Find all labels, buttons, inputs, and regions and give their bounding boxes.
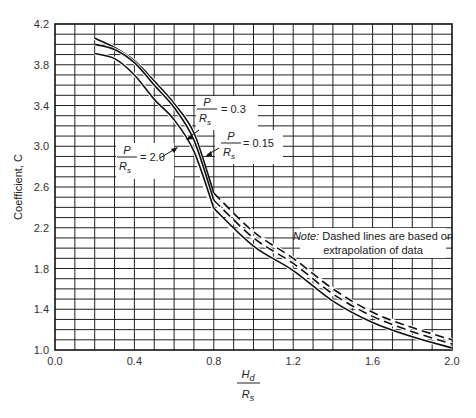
y-tick-label: 3.4: [34, 100, 49, 112]
y-tick-label: 3.8: [34, 59, 49, 71]
annotation-numerator: P: [227, 130, 235, 142]
y-tick-label: 2.2: [34, 222, 49, 234]
y-axis-ticks: 1.01.41.82.22.63.03.43.84.2: [34, 18, 49, 356]
x-axis-ticks: 0.00.40.81.21.62.0: [47, 355, 459, 367]
x-tick-label: 0.4: [127, 355, 142, 367]
annotation-p-2-0: P Rs = 2.0: [116, 143, 178, 179]
x-tick-label: 0.8: [206, 355, 221, 367]
annotation-value: = 0.3: [221, 103, 246, 115]
note-box: Note: Dashed lines are based on extrapol…: [293, 228, 453, 258]
y-tick-label: 4.2: [34, 18, 49, 30]
x-tick-label: 2.0: [444, 355, 459, 367]
y-axis-label: Coefficient, C: [12, 154, 24, 220]
y-tick-label: 3.0: [34, 140, 49, 152]
annotation-numerator: P: [123, 144, 131, 156]
arrowhead-icon: [205, 151, 212, 157]
grid-lines: [55, 24, 452, 350]
x-tick-label: 1.6: [365, 355, 380, 367]
x-label-denominator: Rs: [242, 388, 255, 403]
annotation-numerator: P: [203, 96, 211, 108]
y-tick-label: 1.8: [34, 263, 49, 275]
coefficient-chart: 1.01.41.82.22.63.03.43.84.2 0.00.40.81.2…: [0, 0, 476, 418]
note-line-1: Note: Dashed lines are based on: [293, 230, 453, 242]
annotation-value: = 0.15: [243, 137, 274, 149]
x-tick-label: 0.0: [47, 355, 62, 367]
y-tick-label: 2.6: [34, 181, 49, 193]
annotation-p-0-15: P Rs = 0.15: [205, 130, 283, 164]
note-line-2: extrapolation of data: [323, 244, 424, 256]
x-axis-label: Hd Rs: [237, 368, 260, 403]
x-label-numerator: Hd: [242, 368, 256, 383]
x-tick-label: 1.2: [286, 355, 301, 367]
y-tick-label: 1.4: [34, 303, 49, 315]
